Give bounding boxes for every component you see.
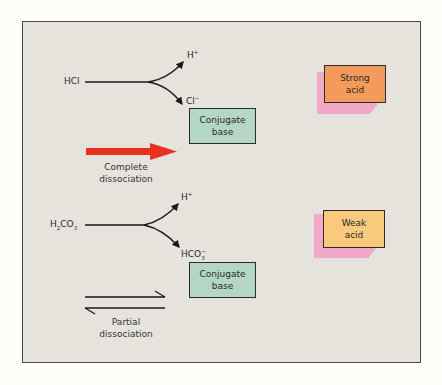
strong-fork-arrow (85, 62, 183, 104)
reactant-h2co3: H2CO3 (50, 219, 77, 230)
product-h-plus: H+ (187, 50, 198, 61)
weak-fork-arrow (85, 204, 179, 247)
product-hco3-minus: HCO−3 (181, 249, 205, 260)
caption-line1: Partial (86, 316, 166, 328)
product-h-plus-base: H (187, 50, 194, 60)
conjugate-box-line2: base (200, 280, 246, 292)
weak-acid-box: Weakacid (323, 210, 385, 248)
product-h-base: H (181, 192, 188, 202)
product-cl-minus: Cl− (186, 96, 199, 107)
strong-conjugate-base-box: Conjugatebase (189, 108, 256, 144)
reaction-lines (0, 0, 442, 385)
conjugate-box-line1: Conjugate (200, 114, 246, 126)
conjugate-box-line2: base (200, 126, 246, 138)
weak-acid-line2: acid (342, 229, 367, 241)
reactant-h: H (50, 219, 57, 229)
product-hco3-charge: − (201, 248, 206, 254)
weak-acid-line1: Weak (342, 217, 367, 229)
reactant-sub-3: 3 (74, 225, 78, 231)
caption-line2: dissociation (86, 173, 166, 185)
equilibrium-arrows-icon (85, 291, 165, 314)
partial-dissociation-caption: Partial dissociation (86, 316, 166, 340)
complete-dissociation-arrow-icon (86, 143, 177, 160)
caption-line2: dissociation (86, 328, 166, 340)
product-h-plus-weak: H+ (181, 192, 192, 203)
reactant-hcl: HCl (64, 76, 80, 87)
product-hco3-sub: 3 (201, 255, 205, 261)
weak-conjugate-base-box: Conjugatebase (189, 262, 256, 298)
product-h-plus-charge: + (194, 49, 199, 55)
conjugate-box-line1: Conjugate (200, 268, 246, 280)
complete-dissociation-caption: Complete dissociation (86, 161, 166, 185)
strong-acid-line2: acid (340, 84, 370, 96)
product-hco-base: HCO (181, 249, 201, 259)
product-cl-base: Cl (186, 96, 195, 106)
strong-acid-box: Strongacid (324, 65, 386, 103)
reactant-co: CO (60, 219, 73, 229)
caption-line1: Complete (86, 161, 166, 173)
strong-acid-line1: Strong (340, 72, 370, 84)
product-cl-charge: − (195, 95, 200, 101)
product-h-charge: + (188, 191, 193, 197)
